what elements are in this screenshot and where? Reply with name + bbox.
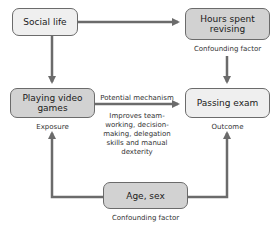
- node-hours-revising: Hours spent revising: [185, 8, 270, 40]
- node-label: Age, sex: [126, 191, 165, 201]
- node-label: Passing exam: [197, 98, 259, 108]
- node-passing-exam: Passing exam: [185, 88, 270, 118]
- node-age-sex: Age, sex: [103, 182, 188, 209]
- caption-age-sex: Confounding factor: [103, 214, 188, 222]
- mechanism-detail: Improves team-working, decision-making, …: [96, 112, 178, 157]
- caption-hours-revising: Confounding factor: [185, 45, 270, 53]
- caption-exposure: Exposure: [10, 123, 95, 131]
- node-label: Playing video games: [18, 93, 88, 113]
- node-playing-games: Playing video games: [10, 88, 95, 118]
- node-social-life: Social life: [12, 8, 78, 36]
- node-label: Hours spent revising: [198, 14, 258, 34]
- mechanism-label: Potential mechanism: [96, 94, 178, 102]
- node-label: Social life: [23, 17, 66, 27]
- caption-outcome: Outcome: [185, 123, 270, 131]
